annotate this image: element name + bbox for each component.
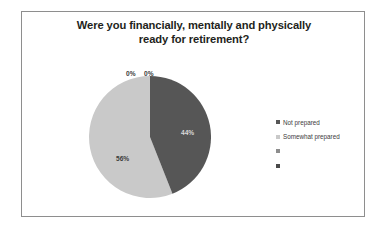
pie-label-0-percent-a: 0% <box>126 70 136 77</box>
plot-area: 0% 0% 44% 56% Not prepared Somewhat prep… <box>22 12 366 218</box>
legend-item-blank-2[interactable] <box>276 159 364 174</box>
chart-frame: Were you financially, mentally and physi… <box>21 11 365 217</box>
legend-item-label: Somewhat prepared <box>283 133 340 140</box>
pie-label-44-percent: 44% <box>181 129 194 136</box>
legend-item-somewhat-prepared[interactable]: Somewhat prepared <box>276 130 364 145</box>
pie-svg <box>89 76 211 198</box>
legend-swatch-icon <box>276 149 280 153</box>
pie-label-56-percent: 56% <box>116 155 129 162</box>
legend-item-label: Not prepared <box>283 119 320 126</box>
legend-item-not-prepared[interactable]: Not prepared <box>276 115 364 130</box>
legend-swatch-icon <box>276 135 280 139</box>
chart-legend: Not prepared Somewhat prepared <box>276 115 364 173</box>
pie-chart <box>89 76 211 198</box>
legend-swatch-icon <box>276 120 280 124</box>
pie-label-0-percent-b: 0% <box>144 70 154 77</box>
legend-swatch-icon <box>276 164 280 168</box>
legend-item-blank-1[interactable] <box>276 144 364 159</box>
